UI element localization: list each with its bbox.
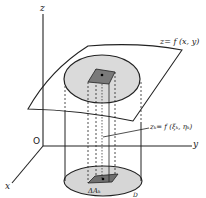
area-element-label: ΔAₖ (88, 188, 101, 195)
sample-height-label: zₖ= f (ξₖ, ηₖ) (150, 124, 192, 131)
x-axis (12, 146, 43, 183)
height-leader-line (103, 128, 149, 137)
sample-point (101, 74, 104, 77)
origin-label: O (33, 137, 40, 146)
diagram-canvas (0, 0, 206, 198)
region-label: D (133, 192, 138, 198)
x-axis-label: x (5, 182, 10, 191)
surface-label: z= f (x, y) (160, 38, 199, 46)
z-axis-label: z (40, 4, 45, 13)
y-axis-label: y (193, 140, 198, 149)
